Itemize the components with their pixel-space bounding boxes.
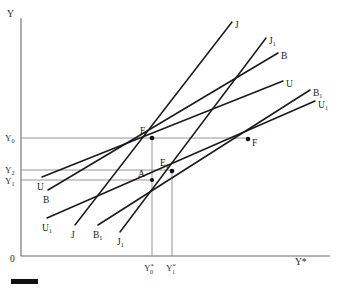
x-axis-label: Y* xyxy=(295,257,307,267)
tick-x0: Y*0 xyxy=(144,262,155,275)
tick-y1: Y1 xyxy=(5,176,15,187)
curve-label-J-bottom: J xyxy=(71,230,75,240)
tick-y2: Y2 xyxy=(5,165,15,176)
curve-label-J-top: J xyxy=(235,20,239,30)
diagram-canvas: Y 0 Y* Y0 Y2 Y1 Y*0 Y*1 J J1 B U xyxy=(0,0,343,288)
scan-marker-bar xyxy=(11,279,38,284)
y-axis-label: Y xyxy=(7,9,14,19)
curve-label-U1-top: U1 xyxy=(318,100,328,111)
curve-J xyxy=(75,22,232,225)
curve-label-B1-bottom: B1 xyxy=(93,230,102,241)
curve-label-U-bottom: U xyxy=(37,182,44,192)
curve-label-J1-bottom: J1 xyxy=(117,237,124,248)
curve-B xyxy=(48,53,278,190)
point-label-F: F xyxy=(252,138,257,148)
point-A-marker xyxy=(150,178,154,182)
point-E1-marker xyxy=(170,169,175,174)
curve-label-U-top: U xyxy=(286,79,293,89)
point-E-marker xyxy=(150,136,155,141)
curve-label-B-top: B xyxy=(281,51,287,61)
economics-diagram: Y 0 Y* Y0 Y2 Y1 Y*0 Y*1 J J1 B U xyxy=(0,0,343,288)
point-label-E: E xyxy=(140,126,146,136)
origin-label: 0 xyxy=(10,254,15,264)
tick-x1: Y*1 xyxy=(166,262,177,275)
point-label-E1: E1 xyxy=(160,158,169,169)
curve-label-J1-top: J1 xyxy=(269,36,276,47)
tick-y0: Y0 xyxy=(5,133,15,144)
curve-label-B-bottom: B xyxy=(43,195,49,205)
point-label-A: A xyxy=(138,169,145,179)
curve-label-B1-top: B1 xyxy=(313,88,322,99)
curve-B1 xyxy=(98,90,310,225)
curve-label-U1-bottom: U1 xyxy=(42,223,52,234)
point-F-marker xyxy=(246,137,251,142)
